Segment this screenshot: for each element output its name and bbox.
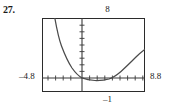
graph-plot [42,18,145,92]
y-min-label: –1 [0,95,173,104]
x-max-label: 8.8 [150,72,161,81]
y-max-label: 8 [0,5,173,14]
x-min-label: –4.8 [19,72,35,81]
curve-path [55,18,145,81]
figure-container: 27. [0,0,173,111]
